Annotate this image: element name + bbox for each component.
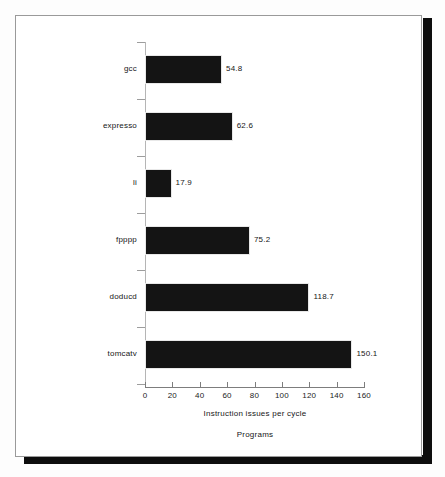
x-axis-tick [227, 382, 228, 388]
x-axis-tick [200, 382, 201, 388]
bar-value-label: 17.9 [176, 178, 192, 187]
y-axis-tick [137, 42, 145, 43]
bar-chart: 020406080100120140160 gcc54.8expresso62.… [0, 0, 445, 477]
y-axis-line [145, 42, 146, 387]
bar [145, 169, 172, 198]
x-axis-tick [309, 382, 310, 388]
scanned-page: 020406080100120140160 gcc54.8expresso62.… [0, 0, 445, 477]
category-label: tomcatv [77, 349, 137, 358]
bar-value-label: 75.2 [254, 235, 270, 244]
x-axis-tick [337, 382, 338, 388]
x-axis-tick-label: 100 [267, 391, 297, 400]
x-axis-tick-label: 0 [130, 391, 160, 400]
bar-value-label: 62.6 [237, 121, 253, 130]
x-axis-tick [145, 382, 146, 388]
bar-value-label: 118.7 [313, 292, 333, 301]
bar [145, 112, 233, 141]
y-axis-tick [137, 270, 145, 271]
bar [145, 226, 250, 255]
category-label: li [77, 178, 137, 187]
bar-value-label: 54.8 [226, 64, 242, 73]
y-axis-title: Programs [105, 430, 405, 439]
x-axis-tick-label: 20 [157, 391, 187, 400]
x-axis-tick [364, 382, 365, 388]
category-label: expresso [77, 121, 137, 130]
x-axis-tick-label: 160 [349, 391, 379, 400]
x-axis-tick [172, 382, 173, 388]
x-axis-tick-label: 80 [240, 391, 270, 400]
y-axis-tick [137, 213, 145, 214]
x-axis-tick [282, 382, 283, 388]
category-label: fpppp [77, 235, 137, 244]
y-axis-tick [137, 327, 145, 328]
bar [145, 55, 222, 84]
bar [145, 283, 309, 312]
bar-value-label: 150.1 [356, 349, 377, 358]
category-label: gcc [77, 64, 137, 73]
x-axis-title: Instruction issues per cycle [105, 409, 405, 418]
x-axis-tick-label: 40 [185, 391, 215, 400]
x-axis-tick-label: 60 [212, 391, 242, 400]
y-axis-tick [137, 156, 145, 157]
bar [145, 340, 352, 369]
x-axis-tick [255, 382, 256, 388]
x-axis-tick-label: 120 [294, 391, 324, 400]
category-label: doducd [77, 292, 137, 301]
x-axis-tick-label: 140 [322, 391, 352, 400]
y-axis-tick [137, 384, 145, 385]
y-axis-tick [137, 99, 145, 100]
